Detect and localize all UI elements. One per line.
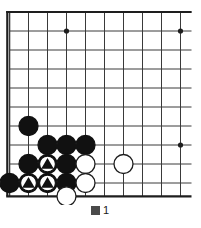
caption-marker-icon bbox=[91, 206, 100, 215]
go-diagram-figure: 1 bbox=[0, 0, 201, 228]
stone-black[interactable] bbox=[38, 136, 57, 155]
go-board[interactable] bbox=[0, 0, 201, 205]
stone-black[interactable] bbox=[19, 155, 38, 174]
black-stone[interactable] bbox=[38, 136, 57, 155]
stone-white[interactable] bbox=[114, 155, 133, 174]
stone-black-marked[interactable] bbox=[19, 174, 38, 193]
white-stone[interactable] bbox=[76, 174, 95, 193]
black-stone[interactable] bbox=[0, 174, 19, 193]
black-stone[interactable] bbox=[76, 136, 95, 155]
stone-black[interactable] bbox=[57, 136, 76, 155]
figure-caption: 1 bbox=[0, 203, 201, 217]
stone-black[interactable] bbox=[76, 136, 95, 155]
stone-black[interactable] bbox=[0, 174, 19, 193]
black-stone[interactable] bbox=[57, 136, 76, 155]
white-stone[interactable] bbox=[76, 155, 95, 174]
star-point bbox=[64, 28, 69, 33]
star-point bbox=[178, 28, 183, 33]
stone-black[interactable] bbox=[19, 117, 38, 136]
white-stone[interactable] bbox=[114, 155, 133, 174]
black-stone[interactable] bbox=[19, 155, 38, 174]
stone-white[interactable] bbox=[76, 155, 95, 174]
star-point bbox=[178, 142, 183, 147]
figure-caption-number: 1 bbox=[103, 204, 110, 216]
stone-black-marked[interactable] bbox=[38, 155, 57, 174]
stone-black[interactable] bbox=[57, 155, 76, 174]
black-stone[interactable] bbox=[57, 155, 76, 174]
black-stone[interactable] bbox=[19, 117, 38, 136]
stone-white[interactable] bbox=[76, 174, 95, 193]
stone-black-marked[interactable] bbox=[38, 174, 57, 193]
